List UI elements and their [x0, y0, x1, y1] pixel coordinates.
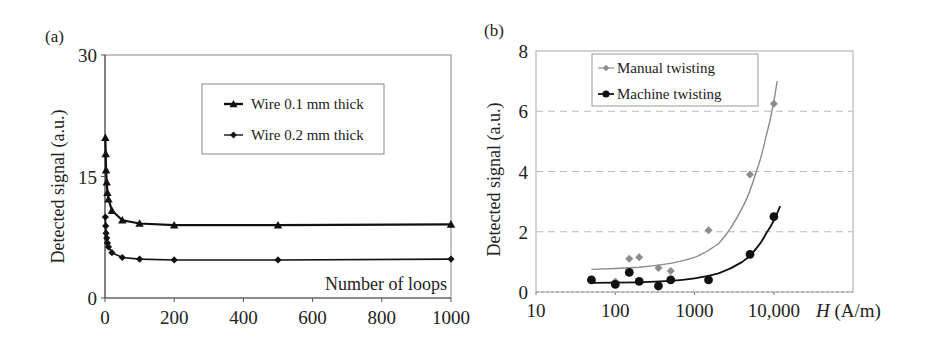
legend-item-label: Wire 0.2 mm thick	[251, 127, 364, 143]
y-axis-title-a: Detected signal (a.u.)	[48, 110, 69, 264]
legend-a: Wire 0.1 mm thickWire 0.2 mm thick	[202, 84, 384, 154]
triangle-marker	[108, 206, 116, 214]
x-axis-title-a: Number of loops	[325, 274, 447, 294]
x-tick-label-a: 1000	[432, 307, 470, 328]
diamond-marker	[705, 226, 713, 234]
legend-item-label: Machine twisting	[617, 86, 722, 102]
x-tick-label-a: 600	[298, 307, 327, 328]
circle-marker	[625, 268, 634, 277]
chart-a: (a)0153002004006008001000Number of loops…	[45, 27, 470, 328]
diamond-marker	[625, 255, 633, 263]
circle-marker	[635, 277, 644, 286]
x-tick-label-a: 400	[229, 307, 258, 328]
circle-marker	[611, 280, 620, 289]
diamond-marker	[171, 256, 178, 263]
legend-item-label: Manual twisting	[617, 60, 715, 76]
y-tick-label-b: 2	[519, 222, 529, 243]
figure: (a)0153002004006008001000Number of loops…	[0, 0, 930, 342]
x-tick-label-b: 1000	[676, 300, 714, 321]
circle-marker	[704, 276, 713, 285]
circle-marker	[770, 212, 779, 221]
x-tick-label-a: 800	[368, 307, 397, 328]
circle-marker	[654, 282, 663, 291]
diamond-marker	[102, 222, 109, 229]
diamond-marker	[447, 256, 454, 263]
diamond-marker	[102, 213, 109, 220]
y-tick-label-b: 8	[519, 41, 529, 62]
x-axis-title-b: H (A/m)	[815, 300, 881, 322]
circle-marker	[666, 276, 675, 285]
diamond-marker	[667, 267, 675, 275]
x-tick-label-b: 10	[527, 300, 546, 321]
x-tick-label-b: 100	[601, 300, 630, 321]
fit-curve	[591, 206, 780, 283]
x-tick-label-a: 200	[160, 307, 189, 328]
triangle-marker	[101, 150, 109, 158]
circle-marker	[746, 250, 755, 259]
x-tick-label-b: 10,000	[748, 300, 800, 321]
y-tick-label-b: 6	[519, 101, 529, 122]
diamond-marker	[274, 256, 281, 263]
legend-b: Manual twistingMachine twisting	[592, 54, 758, 106]
x-tick-label-a: 0	[100, 307, 110, 328]
chart-b: (b)0246810100100010,000H (A/m)Detected s…	[484, 21, 881, 322]
panel-label-b: (b)	[484, 21, 504, 40]
triangle-marker	[102, 166, 110, 174]
diamond-marker	[119, 254, 126, 261]
y-tick-label-a: 30	[78, 45, 97, 66]
y-tick-label-a: 0	[88, 288, 98, 309]
y-tick-label-b: 4	[519, 162, 529, 183]
panel-label-a: (a)	[45, 27, 64, 46]
circle-marker	[587, 276, 596, 285]
circle-icon	[602, 90, 609, 97]
y-tick-label-a: 15	[78, 167, 97, 188]
diamond-marker	[770, 100, 778, 108]
diamond-marker	[635, 253, 643, 261]
diamond-marker	[136, 256, 143, 263]
legend-item-label: Wire 0.1 mm thick	[251, 96, 364, 112]
diamond-marker	[108, 249, 115, 256]
triangle-marker	[101, 133, 109, 141]
y-axis-title-b: Detected signal (a.u.)	[484, 103, 505, 257]
triangle-marker	[103, 178, 111, 186]
